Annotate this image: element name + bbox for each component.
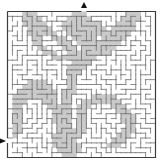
maze-board[interactable] <box>0 0 161 163</box>
maze-puzzle: Maze <box>0 0 161 163</box>
